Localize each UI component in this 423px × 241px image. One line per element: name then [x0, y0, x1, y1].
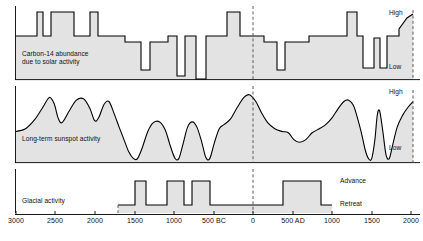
time-axis: 3000 2500 2000 1500 1000 500 BC 0 500 AD…: [0, 0, 423, 241]
tick-label-1000ad: 1000: [324, 217, 340, 224]
tick-label-1500ad: 1500: [364, 217, 380, 224]
tick-label-2000bc: 2000: [87, 217, 103, 224]
figure-root: Carbon-14 abundance due to solar activit…: [0, 0, 423, 241]
tick-label-500bc: 500 BC: [202, 217, 226, 224]
tick-label-3000: 3000: [8, 217, 24, 224]
tick-label-1000bc: 1000: [166, 217, 182, 224]
axis-ticks: [16, 211, 411, 215]
tick-label-500ad: 500 AD: [281, 217, 305, 224]
tick-label-zero: 0: [251, 217, 255, 224]
tick-label-1500: 1500: [127, 217, 143, 224]
tick-label-2500: 2500: [47, 217, 63, 224]
tick-label-2000ad: 2000: [403, 217, 419, 224]
